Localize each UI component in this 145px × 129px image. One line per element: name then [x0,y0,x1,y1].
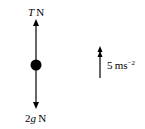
tension-label: T N [28,7,44,18]
acceleration-label: 5 ms−2 [107,60,135,71]
weight-arrowhead-icon [33,102,39,109]
particle [31,60,42,71]
weight-label: 2g N [25,113,46,124]
tension-arrowhead-icon [33,19,39,26]
